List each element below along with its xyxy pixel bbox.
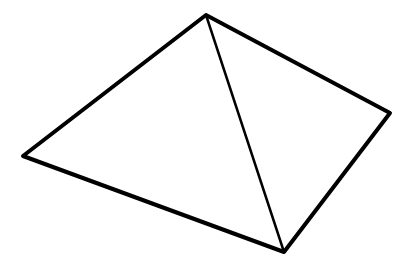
pyramid-diagram <box>0 0 409 266</box>
pyramid-outline <box>23 15 390 252</box>
